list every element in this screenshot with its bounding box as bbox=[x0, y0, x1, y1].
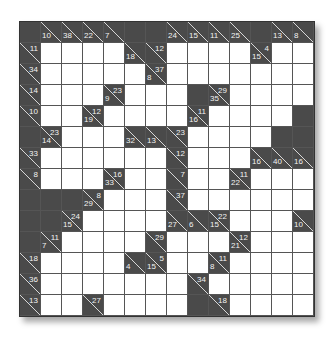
entry-cell[interactable] bbox=[125, 148, 146, 169]
entry-cell[interactable] bbox=[62, 274, 83, 295]
entry-cell[interactable] bbox=[209, 232, 230, 253]
entry-cell[interactable] bbox=[146, 106, 167, 127]
entry-cell[interactable] bbox=[251, 127, 272, 148]
entry-cell[interactable] bbox=[251, 169, 272, 190]
entry-cell[interactable] bbox=[104, 148, 125, 169]
entry-cell[interactable] bbox=[251, 232, 272, 253]
entry-cell[interactable] bbox=[62, 85, 83, 106]
entry-cell[interactable] bbox=[188, 64, 209, 85]
entry-cell[interactable] bbox=[41, 85, 62, 106]
entry-cell[interactable] bbox=[104, 127, 125, 148]
entry-cell[interactable] bbox=[293, 295, 314, 316]
entry-cell[interactable] bbox=[272, 232, 293, 253]
entry-cell[interactable] bbox=[125, 106, 146, 127]
entry-cell[interactable] bbox=[188, 253, 209, 274]
entry-cell[interactable] bbox=[104, 43, 125, 64]
entry-cell[interactable] bbox=[41, 43, 62, 64]
entry-cell[interactable] bbox=[293, 253, 314, 274]
entry-cell[interactable] bbox=[230, 211, 251, 232]
entry-cell[interactable] bbox=[62, 106, 83, 127]
entry-cell[interactable] bbox=[83, 85, 104, 106]
entry-cell[interactable] bbox=[251, 85, 272, 106]
entry-cell[interactable] bbox=[62, 127, 83, 148]
entry-cell[interactable] bbox=[209, 64, 230, 85]
entry-cell[interactable] bbox=[146, 274, 167, 295]
entry-cell[interactable] bbox=[209, 190, 230, 211]
entry-cell[interactable] bbox=[251, 190, 272, 211]
entry-cell[interactable] bbox=[41, 169, 62, 190]
entry-cell[interactable] bbox=[293, 274, 314, 295]
entry-cell[interactable] bbox=[230, 127, 251, 148]
entry-cell[interactable] bbox=[272, 43, 293, 64]
entry-cell[interactable] bbox=[272, 64, 293, 85]
entry-cell[interactable] bbox=[146, 169, 167, 190]
entry-cell[interactable] bbox=[188, 190, 209, 211]
entry-cell[interactable] bbox=[272, 169, 293, 190]
entry-cell[interactable] bbox=[62, 43, 83, 64]
entry-cell[interactable] bbox=[83, 127, 104, 148]
entry-cell[interactable] bbox=[167, 295, 188, 316]
entry-cell[interactable] bbox=[125, 85, 146, 106]
entry-cell[interactable] bbox=[125, 169, 146, 190]
entry-cell[interactable] bbox=[251, 106, 272, 127]
entry-cell[interactable] bbox=[251, 64, 272, 85]
entry-cell[interactable] bbox=[230, 85, 251, 106]
entry-cell[interactable] bbox=[272, 106, 293, 127]
entry-cell[interactable] bbox=[62, 169, 83, 190]
entry-cell[interactable] bbox=[83, 148, 104, 169]
entry-cell[interactable] bbox=[230, 64, 251, 85]
entry-cell[interactable] bbox=[230, 148, 251, 169]
entry-cell[interactable] bbox=[272, 295, 293, 316]
entry-cell[interactable] bbox=[209, 169, 230, 190]
entry-cell[interactable] bbox=[41, 148, 62, 169]
entry-cell[interactable] bbox=[272, 211, 293, 232]
entry-cell[interactable] bbox=[188, 43, 209, 64]
entry-cell[interactable] bbox=[125, 274, 146, 295]
entry-cell[interactable] bbox=[209, 274, 230, 295]
entry-cell[interactable] bbox=[293, 43, 314, 64]
entry-cell[interactable] bbox=[62, 148, 83, 169]
entry-cell[interactable] bbox=[83, 169, 104, 190]
entry-cell[interactable] bbox=[125, 211, 146, 232]
entry-cell[interactable] bbox=[104, 106, 125, 127]
entry-cell[interactable] bbox=[167, 274, 188, 295]
entry-cell[interactable] bbox=[146, 85, 167, 106]
entry-cell[interactable] bbox=[146, 148, 167, 169]
entry-cell[interactable] bbox=[104, 64, 125, 85]
entry-cell[interactable] bbox=[293, 64, 314, 85]
entry-cell[interactable] bbox=[230, 106, 251, 127]
entry-cell[interactable] bbox=[62, 295, 83, 316]
entry-cell[interactable] bbox=[251, 274, 272, 295]
entry-cell[interactable] bbox=[167, 85, 188, 106]
entry-cell[interactable] bbox=[104, 253, 125, 274]
entry-cell[interactable] bbox=[188, 148, 209, 169]
entry-cell[interactable] bbox=[167, 106, 188, 127]
entry-cell[interactable] bbox=[104, 211, 125, 232]
entry-cell[interactable] bbox=[230, 190, 251, 211]
entry-cell[interactable] bbox=[146, 295, 167, 316]
entry-cell[interactable] bbox=[41, 295, 62, 316]
entry-cell[interactable] bbox=[167, 253, 188, 274]
entry-cell[interactable] bbox=[83, 253, 104, 274]
entry-cell[interactable] bbox=[104, 190, 125, 211]
entry-cell[interactable] bbox=[167, 232, 188, 253]
entry-cell[interactable] bbox=[125, 64, 146, 85]
entry-cell[interactable] bbox=[146, 211, 167, 232]
entry-cell[interactable] bbox=[230, 295, 251, 316]
entry-cell[interactable] bbox=[188, 127, 209, 148]
entry-cell[interactable] bbox=[83, 64, 104, 85]
entry-cell[interactable] bbox=[41, 253, 62, 274]
entry-cell[interactable] bbox=[272, 253, 293, 274]
entry-cell[interactable] bbox=[230, 253, 251, 274]
entry-cell[interactable] bbox=[188, 169, 209, 190]
entry-cell[interactable] bbox=[146, 190, 167, 211]
entry-cell[interactable] bbox=[83, 43, 104, 64]
entry-cell[interactable] bbox=[209, 127, 230, 148]
entry-cell[interactable] bbox=[41, 106, 62, 127]
entry-cell[interactable] bbox=[83, 211, 104, 232]
entry-cell[interactable] bbox=[104, 274, 125, 295]
entry-cell[interactable] bbox=[83, 274, 104, 295]
entry-cell[interactable] bbox=[41, 64, 62, 85]
entry-cell[interactable] bbox=[188, 232, 209, 253]
entry-cell[interactable] bbox=[272, 85, 293, 106]
